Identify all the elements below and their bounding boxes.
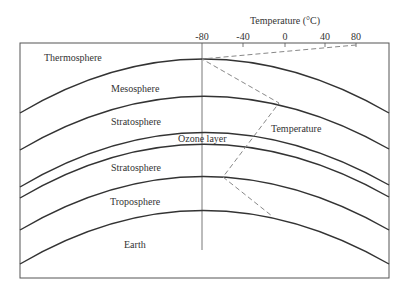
label-stratosphere-lower: Stratosphere [111,162,162,173]
tick-40: 40 [320,31,330,42]
atmosphere-diagram: -80 -40 0 40 80 Temperature (°C) Thermos… [0,0,409,293]
tick-0: 0 [283,31,288,42]
label-temperature: Temperature [271,123,322,134]
label-stratosphere-upper: Stratosphere [111,116,162,127]
boundary-earth-surface [20,211,389,265]
temperature-axis: -80 -40 0 40 80 Temperature (°C) [195,15,361,47]
label-earth: Earth [124,239,146,250]
label-troposphere: Troposphere [110,196,161,207]
boundary-strato-tropo [20,177,389,231]
tick-minus-40: -40 [236,31,249,42]
label-thermosphere: Thermosphere [44,52,102,63]
boundary-ozone-bottom [20,144,389,198]
tick-minus-80: -80 [195,31,208,42]
axis-title: Temperature (°C) [250,15,320,27]
diagram-frame [20,43,389,278]
layer-boundaries [20,59,389,264]
tick-80: 80 [351,31,361,42]
boundary-thermo-meso [20,59,389,113]
label-mesosphere: Mesosphere [111,83,160,94]
label-ozone-layer: Ozone layer [178,133,227,144]
